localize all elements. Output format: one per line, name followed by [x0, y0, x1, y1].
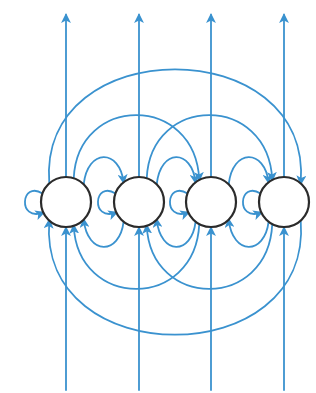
- edge-n3-to-n4: [229, 157, 269, 184]
- edge-n2-to-n4: [147, 115, 273, 180]
- edge-n4-to-n3: [229, 220, 269, 247]
- edge-n4-to-n2: [147, 224, 273, 289]
- state-graph-diagram: [0, 0, 316, 393]
- state-node-n2: [114, 177, 164, 227]
- nodes-layer: [41, 177, 309, 227]
- edge-n1-to-n3: [74, 115, 200, 180]
- state-node-n4: [259, 177, 309, 227]
- edge-n2-to-n3: [157, 157, 196, 184]
- edge-n2-to-n1: [84, 220, 124, 247]
- edge-n3-to-n2: [157, 220, 196, 247]
- state-node-n3: [186, 177, 236, 227]
- edge-n1-to-n2: [84, 157, 124, 184]
- state-node-n1: [41, 177, 91, 227]
- edge-n3-to-n1: [74, 224, 200, 289]
